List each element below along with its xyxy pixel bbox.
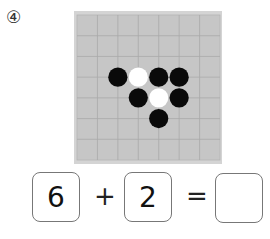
plus-sign: + — [94, 180, 116, 212]
white-stone — [129, 68, 148, 87]
black-stone — [108, 68, 127, 87]
answer-box[interactable] — [215, 173, 263, 223]
black-stone — [170, 88, 189, 107]
first-number: 6 — [47, 181, 65, 214]
white-stone — [149, 88, 168, 107]
black-stone — [149, 68, 168, 87]
go-board — [74, 11, 222, 164]
equals-sign: = — [186, 180, 208, 212]
black-stone — [129, 88, 148, 107]
second-number-box: 2 — [124, 172, 172, 222]
first-number-box: 6 — [32, 172, 80, 222]
second-number: 2 — [139, 181, 157, 214]
question-number: ④ — [6, 7, 21, 27]
black-stone — [149, 109, 168, 128]
board-inner — [77, 15, 220, 160]
black-stone — [170, 68, 189, 87]
